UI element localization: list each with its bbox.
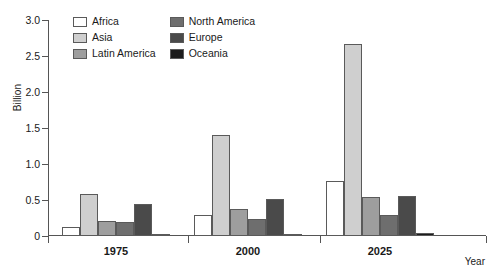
y-axis-tick-label: 1.0: [0, 159, 40, 169]
legend-label: Latin America: [92, 48, 156, 59]
bar: [134, 204, 152, 236]
legend-label: North America: [189, 16, 256, 27]
x-axis-title: Year: [465, 256, 485, 267]
x-axis-group-label: 2025: [340, 245, 420, 257]
legend-item: Oceania: [170, 46, 256, 61]
bar: [194, 215, 212, 236]
legend-swatch-icon: [170, 17, 184, 27]
x-axis-tick: [188, 236, 189, 243]
legend-item: Europe: [170, 30, 256, 45]
population-bar-chart: Billion 00.51.01.52.02.53.0 197520002025…: [0, 0, 489, 271]
legend-swatch-icon: [73, 17, 87, 27]
x-axis-tick: [320, 236, 321, 243]
bar: [266, 199, 284, 236]
legend-swatch-icon: [170, 49, 184, 59]
x-axis-group-label: 1975: [76, 245, 156, 257]
y-axis-tick-label: 0: [0, 231, 40, 241]
bar: [80, 194, 98, 236]
x-axis-tick: [48, 236, 49, 243]
legend-item: Asia: [73, 30, 156, 45]
bar: [284, 234, 302, 236]
chart-legend: AfricaNorth AmericaAsiaEuropeLatin Ameri…: [73, 14, 255, 61]
legend-label: Europe: [189, 32, 223, 43]
bar: [152, 234, 170, 236]
y-axis-tick-label: 3.0: [0, 15, 40, 25]
bar: [380, 215, 398, 236]
bar: [326, 181, 344, 236]
x-axis-group-label: 2000: [208, 245, 288, 257]
legend-label: Africa: [92, 16, 119, 27]
bar: [248, 219, 266, 236]
bar: [116, 222, 134, 236]
legend-swatch-icon: [170, 33, 184, 43]
legend-swatch-icon: [73, 33, 87, 43]
x-axis-tick: [486, 236, 487, 243]
bar: [362, 197, 380, 236]
bar: [62, 227, 80, 236]
legend-label: Oceania: [189, 48, 228, 59]
bar: [398, 196, 416, 236]
bar: [98, 221, 116, 236]
y-axis-tick-label: 2.0: [0, 87, 40, 97]
y-axis-tick-label: 2.5: [0, 51, 40, 61]
y-axis-tick-label: 1.5: [0, 123, 40, 133]
bar: [212, 135, 230, 236]
bar: [230, 209, 248, 236]
legend-item: Latin America: [73, 46, 156, 61]
bar: [416, 233, 434, 236]
legend-item: Africa: [73, 14, 156, 29]
bar: [344, 44, 362, 236]
legend-item: North America: [170, 14, 256, 29]
legend-swatch-icon: [73, 49, 87, 59]
legend-label: Asia: [92, 32, 112, 43]
y-axis-tick-label: 0.5: [0, 195, 40, 205]
